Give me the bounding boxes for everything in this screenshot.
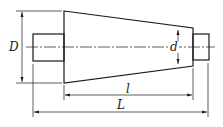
left-shaft xyxy=(33,34,64,61)
shaft-drawing xyxy=(0,0,223,127)
label-d: d xyxy=(169,41,179,53)
label-l: l xyxy=(126,83,130,95)
label-L: L xyxy=(117,99,125,111)
diagram-canvas: D d l L xyxy=(0,0,223,127)
label-D: D xyxy=(9,41,19,53)
